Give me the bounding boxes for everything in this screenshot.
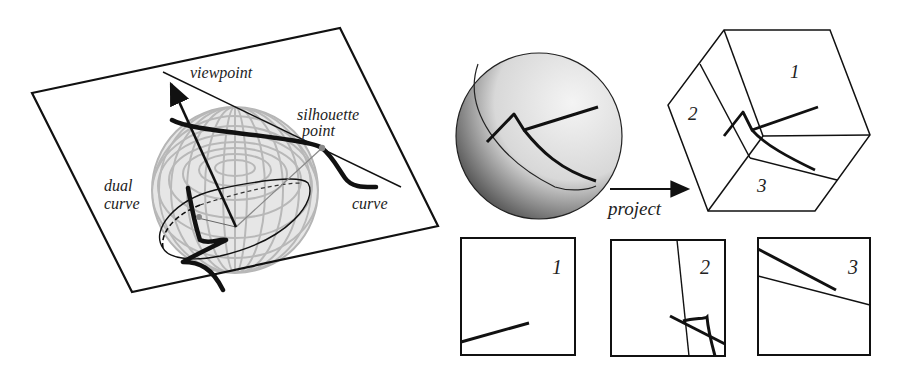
dual-point-dot: [196, 214, 202, 220]
cube-face-2-label: 2: [688, 103, 698, 124]
left-figure: viewpoint silhouette point dual curve cu…: [32, 28, 438, 292]
cube-face-3-label: 3: [756, 175, 767, 196]
label-project: project: [606, 198, 662, 219]
shaded-sphere: [456, 53, 622, 219]
panel-3: 3: [758, 238, 870, 355]
panel-1-label: 1: [552, 256, 562, 278]
label-point: point: [301, 122, 335, 140]
silhouette-point-dot: [319, 145, 325, 151]
panel-1: 1: [461, 238, 575, 355]
diagram-canvas: viewpoint silhouette point dual curve cu…: [0, 0, 904, 377]
label-dual: dual: [104, 177, 133, 194]
right-figure: project 1 2 3 1 2: [456, 30, 870, 356]
cube-projection: 1 2 3: [668, 30, 870, 211]
panel-3-label: 3: [847, 256, 858, 278]
label-silhouette: silhouette: [297, 106, 359, 123]
panel-2-label: 2: [700, 256, 710, 278]
panel-2: 2: [611, 240, 725, 356]
cube-face-1-label: 1: [790, 61, 800, 82]
label-viewpoint: viewpoint: [190, 64, 253, 82]
label-curve: curve: [352, 195, 388, 212]
label-dual-curve: curve: [104, 195, 140, 212]
